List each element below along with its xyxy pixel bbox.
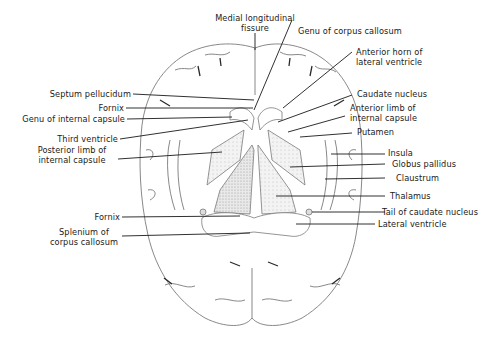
label-text: fissure bbox=[200, 23, 310, 33]
label-text: internal capsule bbox=[350, 113, 417, 123]
label-septum-pellucidum: Septum pellucidum bbox=[0, 89, 131, 99]
label-third-ventricle: Third ventricle bbox=[0, 134, 118, 144]
label-anterior-limb: Anterior limb of internal capsule bbox=[350, 103, 417, 123]
central-structures bbox=[200, 108, 312, 237]
label-text: Posterior limb of bbox=[0, 145, 114, 155]
label-caudate-nucleus: Caudate nucleus bbox=[357, 89, 427, 99]
label-putamen: Putamen bbox=[357, 127, 394, 137]
label-tail-caudate: Tail of caudate nucleus bbox=[382, 207, 478, 217]
label-posterior-limb: Posterior limb of internal capsule bbox=[0, 145, 114, 165]
label-text: Anterior limb of bbox=[350, 103, 417, 113]
label-medial-longitudinal-fissure: Medial longitudinal fissure bbox=[200, 13, 310, 33]
label-insula: Insula bbox=[388, 148, 413, 158]
label-anterior-horn: Anterior horn of lateral ventricle bbox=[356, 47, 422, 67]
label-lateral-ventricle: Lateral ventricle bbox=[378, 219, 447, 229]
label-fornix-upper: Fornix bbox=[0, 103, 124, 113]
label-globus-pallidus: Globus pallidus bbox=[392, 159, 456, 169]
label-text: Medial longitudinal bbox=[200, 13, 310, 23]
label-text: corpus callosum bbox=[48, 237, 120, 247]
label-claustrum: Claustrum bbox=[396, 173, 439, 183]
label-thalamus: Thalamus bbox=[390, 191, 431, 201]
label-text: lateral ventricle bbox=[356, 57, 422, 67]
label-splenium: Splenium of corpus callosum bbox=[48, 227, 120, 247]
label-genu-internal-capsule: Genu of internal capsule bbox=[0, 114, 125, 124]
label-fornix-lower: Fornix bbox=[0, 212, 120, 222]
label-genu-corpus-callosum: Genu of corpus callosum bbox=[298, 26, 402, 36]
label-text: internal capsule bbox=[0, 155, 114, 165]
label-text: Anterior horn of bbox=[356, 47, 422, 57]
label-text: Splenium of bbox=[48, 227, 120, 237]
